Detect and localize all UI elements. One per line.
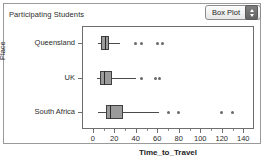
plot-type-selected-value: Box Plot <box>212 8 245 17</box>
y-axis-title: Place <box>0 41 7 60</box>
x-axis-tick <box>200 129 201 133</box>
x-axis-tick-label: 140 <box>230 134 256 143</box>
x-axis-tick <box>136 129 137 133</box>
x-axis-tick <box>243 129 244 133</box>
x-axis-tick <box>114 129 115 133</box>
stepper-arrows-icon[interactable] <box>245 5 258 20</box>
boxplot-widget: Participating Students Box Plot Place Ti… <box>0 0 266 168</box>
x-axis-minor-tick <box>233 129 234 131</box>
y-axis-tick <box>78 112 82 113</box>
y-axis-category-label: UK <box>10 73 75 82</box>
x-axis-minor-tick <box>147 129 148 131</box>
x-axis-minor-tick <box>168 129 169 131</box>
x-axis-tick <box>157 129 158 133</box>
x-axis-title: Time_to_Travel <box>82 148 254 157</box>
x-axis-tick <box>222 129 223 133</box>
x-axis-minor-tick <box>190 129 191 131</box>
page-title: Participating Students <box>9 10 84 19</box>
x-axis-minor-tick <box>211 129 212 131</box>
y-axis-category-label: South Africa <box>10 107 75 116</box>
x-axis-tick <box>93 129 94 133</box>
y-axis-tick <box>78 78 82 79</box>
plot-type-dropdown[interactable]: Box Plot <box>205 5 261 20</box>
x-axis-minor-tick <box>125 129 126 131</box>
x-axis-tick <box>179 129 180 133</box>
x-axis-minor-tick <box>104 129 105 131</box>
plot-area <box>82 26 254 129</box>
y-axis-category-label: Queensland <box>10 38 75 47</box>
y-axis-tick <box>78 43 82 44</box>
